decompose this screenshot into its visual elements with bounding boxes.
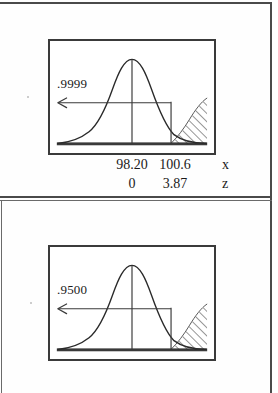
diagram-panel-top: .9999 98.20 100.6 x 0 3.87 z <box>0 0 272 196</box>
chart-frame-bottom <box>48 245 216 361</box>
shaded-tail-region <box>165 80 212 148</box>
probability-label-bottom: .9500 <box>57 283 87 296</box>
x-tick-mean: 98.20 <box>116 158 148 173</box>
normal-distribution-chart-bottom <box>50 247 214 359</box>
chart-frame-top <box>48 39 216 155</box>
probability-label-top: .9999 <box>57 77 87 90</box>
axis-label-block-top: 98.20 100.6 x 0 3.87 z <box>0 158 272 196</box>
diagram-panel-bottom: .9500 98.20 ? x 0 1.645 z <box>0 201 272 393</box>
cumulative-area-arrow <box>58 304 171 314</box>
x-axis-name: x <box>222 158 229 173</box>
normal-distribution-chart-top <box>50 41 214 153</box>
cumulative-area-arrow <box>58 98 171 108</box>
z-tick-boundary: 3.87 <box>163 177 188 192</box>
normal-curve-figure-bottom: .9500 <box>48 245 216 361</box>
x-axis-row: 98.20 100.6 x <box>0 158 272 177</box>
z-tick-mean: 0 <box>129 177 136 192</box>
panel-divider <box>0 196 272 198</box>
normal-curve-figure-top: .9999 <box>48 39 216 155</box>
z-axis-row: 0 3.87 z <box>0 177 272 196</box>
shaded-tail-region <box>165 286 212 354</box>
z-axis-name: z <box>222 177 228 192</box>
scanned-page: .9999 98.20 100.6 x 0 3.87 z <box>0 0 278 393</box>
x-tick-boundary: 100.6 <box>159 158 191 173</box>
